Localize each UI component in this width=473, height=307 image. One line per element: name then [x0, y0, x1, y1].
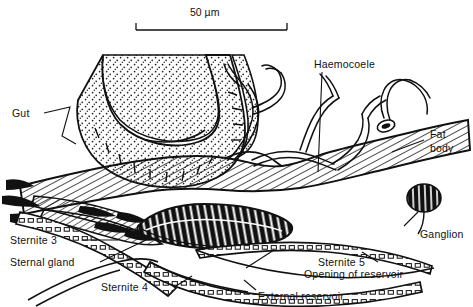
label-ganglion: Ganglion: [420, 228, 464, 240]
label-fat-body-line2: body: [430, 142, 454, 154]
label-sternite-5: Sternite 5: [318, 256, 365, 268]
label-sternal-gland: Sternal gland: [10, 256, 74, 268]
figure-panel: 50 µm Gut Haemocoele Fat body Ganglion S…: [0, 0, 473, 307]
scale-bar: [136, 23, 287, 30]
label-fat-body-line1: Fat: [430, 128, 446, 140]
label-opening-of-reservoir: Opening of reservoir: [304, 268, 403, 280]
ganglion-structure: [407, 184, 441, 234]
label-sternite-3: Sternite 3: [10, 234, 57, 246]
label-haemocoele: Haemocoele: [314, 58, 375, 70]
label-sternite-4: Sternite 4: [101, 281, 148, 293]
label-gut: Gut: [12, 107, 30, 119]
scale-bar-label: 50 µm: [190, 6, 219, 18]
sternal-gland: [137, 204, 292, 248]
label-external-reservoir: External reservoir: [258, 290, 344, 302]
